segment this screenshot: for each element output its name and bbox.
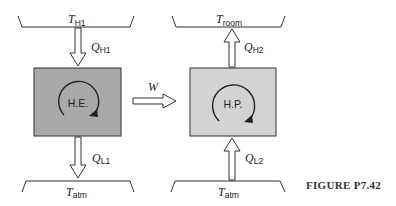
svg-text:QL1: QL1: [92, 151, 110, 166]
reservoir-troom-subscript: room: [223, 18, 242, 28]
work-symbol: W: [148, 80, 159, 94]
figure-caption: FIGURE P7.42: [306, 179, 381, 191]
ql2-subscript: L2: [254, 156, 264, 166]
qh1-symbol: Q: [91, 40, 100, 54]
svg-text:QH1: QH1: [91, 40, 111, 55]
reservoir-th1-subscript: H1: [75, 18, 86, 28]
reservoir-tatm-left-subscript: atm: [73, 190, 87, 200]
svg-text:Troom: Troom: [216, 12, 242, 28]
qh2-subscript: H2: [253, 45, 264, 55]
ql1-subscript: L1: [101, 156, 111, 166]
heat-pump-box: H.P.: [190, 68, 276, 136]
arrow-qh1: QH1: [70, 28, 111, 66]
svg-text:QH2: QH2: [244, 40, 264, 55]
svg-text:Tatm: Tatm: [66, 185, 87, 200]
qh1-subscript: H1: [100, 45, 111, 55]
arrow-ql2: QL2: [224, 138, 263, 180]
reservoir-tatm-right-subscript: atm: [225, 190, 239, 200]
arrow-qh2: QH2: [224, 29, 264, 67]
arrow-work: W: [133, 80, 176, 108]
qh2-symbol: Q: [244, 40, 253, 54]
reservoir-tatm-right: Tatm: [171, 181, 285, 200]
reservoir-troom: Troom: [172, 12, 285, 28]
svg-text:Tatm: Tatm: [218, 185, 239, 200]
ql2-symbol: Q: [245, 151, 254, 165]
ql1-symbol: Q: [92, 151, 101, 165]
svg-text:QL2: QL2: [245, 151, 263, 166]
reservoir-tatm-left: Tatm: [22, 181, 134, 200]
reservoir-th1: TH1: [18, 12, 134, 28]
heat-pump-label: H.P.: [223, 98, 242, 110]
heat-engine-box: H.E.: [34, 68, 121, 136]
arrow-ql1: QL1: [70, 137, 110, 178]
heat-engine-label: H.E.: [68, 97, 88, 109]
heat-engine-heat-pump-diagram: TH1 Troom Tatm Tatm H.E. H.P.: [0, 0, 396, 206]
svg-text:TH1: TH1: [68, 12, 86, 28]
